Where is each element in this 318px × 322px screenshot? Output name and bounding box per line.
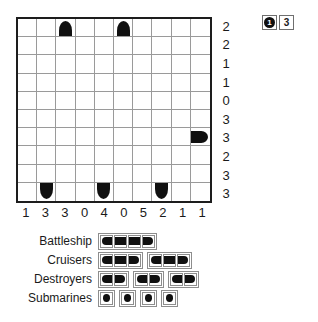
grid-cell-r5-c1[interactable] (18, 92, 37, 110)
grid-cell-r10-c8[interactable] (152, 183, 171, 201)
grid-cell-r5-c9[interactable] (172, 92, 191, 110)
fleet-ship-submarines-1[interactable] (98, 290, 115, 307)
fleet-ship-destroyers-1[interactable] (98, 271, 129, 288)
grid-cell-r10-c9[interactable] (172, 183, 191, 201)
grid-cell-r7-c7[interactable] (133, 128, 152, 146)
grid-cell-r6-c2[interactable] (37, 110, 56, 128)
grid-cell-r3-c4[interactable] (76, 55, 95, 73)
grid-cell-r10-c10[interactable] (191, 183, 210, 201)
grid-cell-r3-c8[interactable] (152, 55, 171, 73)
battleship-grid[interactable] (16, 17, 212, 203)
grid-cell-r5-c6[interactable] (114, 92, 133, 110)
grid-cell-r6-c9[interactable] (172, 110, 191, 128)
grid-cell-r7-c4[interactable] (76, 128, 95, 146)
grid-cell-r10-c3[interactable] (56, 183, 75, 201)
grid-cell-r1-c2[interactable] (37, 19, 56, 37)
grid-cell-r4-c10[interactable] (191, 74, 210, 92)
grid-cell-r8-c5[interactable] (95, 146, 114, 164)
grid-cell-r6-c8[interactable] (152, 110, 171, 128)
grid-cell-r9-c10[interactable] (191, 165, 210, 183)
grid-cell-r3-c9[interactable] (172, 55, 191, 73)
grid-cell-r7-c10[interactable] (191, 128, 210, 146)
fleet-ship-cruisers-1[interactable] (98, 252, 143, 269)
grid-cell-r4-c7[interactable] (133, 74, 152, 92)
grid-cell-r5-c4[interactable] (76, 92, 95, 110)
grid-cell-r5-c10[interactable] (191, 92, 210, 110)
grid-cell-r1-c1[interactable] (18, 19, 37, 37)
grid-cell-r5-c3[interactable] (56, 92, 75, 110)
grid-cell-r6-c5[interactable] (95, 110, 114, 128)
badge-1[interactable]: 1 (262, 15, 277, 30)
grid-cell-r7-c9[interactable] (172, 128, 191, 146)
grid-cell-r9-c4[interactable] (76, 165, 95, 183)
fleet-ship-destroyers-2[interactable] (133, 271, 164, 288)
grid-cell-r2-c2[interactable] (37, 37, 56, 55)
fleet-ship-submarines-4[interactable] (161, 290, 178, 307)
grid-cell-r4-c9[interactable] (172, 74, 191, 92)
grid-cell-r10-c4[interactable] (76, 183, 95, 201)
grid-cell-r10-c6[interactable] (114, 183, 133, 201)
grid-cell-r9-c3[interactable] (56, 165, 75, 183)
grid-cell-r1-c7[interactable] (133, 19, 152, 37)
grid-cell-r1-c5[interactable] (95, 19, 114, 37)
grid-cell-r6-c4[interactable] (76, 110, 95, 128)
grid-cell-r3-c3[interactable] (56, 55, 75, 73)
grid-cell-r7-c3[interactable] (56, 128, 75, 146)
grid-cell-r9-c2[interactable] (37, 165, 56, 183)
grid-cell-r7-c2[interactable] (37, 128, 56, 146)
grid-cell-r8-c7[interactable] (133, 146, 152, 164)
grid-cell-r3-c7[interactable] (133, 55, 152, 73)
grid-cell-r8-c8[interactable] (152, 146, 171, 164)
grid-cell-r6-c1[interactable] (18, 110, 37, 128)
grid-cell-r2-c9[interactable] (172, 37, 191, 55)
grid-cell-r4-c3[interactable] (56, 74, 75, 92)
grid-cell-r3-c10[interactable] (191, 55, 210, 73)
grid-cell-r8-c10[interactable] (191, 146, 210, 164)
grid-cell-r1-c4[interactable] (76, 19, 95, 37)
grid-cell-r2-c7[interactable] (133, 37, 152, 55)
grid-cell-r6-c7[interactable] (133, 110, 152, 128)
grid-cell-r3-c1[interactable] (18, 55, 37, 73)
grid-cell-r6-c3[interactable] (56, 110, 75, 128)
grid-cell-r5-c8[interactable] (152, 92, 171, 110)
grid-cell-r5-c2[interactable] (37, 92, 56, 110)
fleet-ship-cruisers-2[interactable] (147, 252, 192, 269)
grid-cell-r10-c7[interactable] (133, 183, 152, 201)
grid-cell-r2-c10[interactable] (191, 37, 210, 55)
grid-cell-r7-c6[interactable] (114, 128, 133, 146)
fleet-ship-destroyers-3[interactable] (168, 271, 199, 288)
grid-cell-r3-c6[interactable] (114, 55, 133, 73)
grid-cell-r5-c5[interactable] (95, 92, 114, 110)
grid-cell-r9-c6[interactable] (114, 165, 133, 183)
fleet-ship-battleship-1[interactable] (98, 233, 157, 250)
grid-cell-r7-c8[interactable] (152, 128, 171, 146)
grid-cell-r4-c1[interactable] (18, 74, 37, 92)
grid-cell-r2-c5[interactable] (95, 37, 114, 55)
grid-cell-r2-c8[interactable] (152, 37, 171, 55)
grid-cell-r4-c2[interactable] (37, 74, 56, 92)
grid-cell-r2-c6[interactable] (114, 37, 133, 55)
fleet-ship-submarines-3[interactable] (140, 290, 157, 307)
grid-cell-r8-c9[interactable] (172, 146, 191, 164)
grid-cell-r8-c2[interactable] (37, 146, 56, 164)
grid-cell-r10-c1[interactable] (18, 183, 37, 201)
grid-cell-r2-c1[interactable] (18, 37, 37, 55)
grid-cell-r10-c5[interactable] (95, 183, 114, 201)
grid-cell-r1-c3[interactable] (56, 19, 75, 37)
grid-cell-r8-c3[interactable] (56, 146, 75, 164)
grid-cell-r7-c1[interactable] (18, 128, 37, 146)
grid-cell-r9-c8[interactable] (152, 165, 171, 183)
grid-cell-r4-c8[interactable] (152, 74, 171, 92)
grid-cell-r1-c6[interactable] (114, 19, 133, 37)
grid-cell-r4-c4[interactable] (76, 74, 95, 92)
grid-cell-r9-c7[interactable] (133, 165, 152, 183)
grid-cell-r1-c8[interactable] (152, 19, 171, 37)
grid-cell-r4-c6[interactable] (114, 74, 133, 92)
grid-cell-r8-c1[interactable] (18, 146, 37, 164)
fleet-ship-submarines-2[interactable] (119, 290, 136, 307)
grid-cell-r2-c3[interactable] (56, 37, 75, 55)
grid-cell-r9-c9[interactable] (172, 165, 191, 183)
grid-cell-r1-c10[interactable] (191, 19, 210, 37)
grid-cell-r6-c10[interactable] (191, 110, 210, 128)
grid-cell-r10-c2[interactable] (37, 183, 56, 201)
